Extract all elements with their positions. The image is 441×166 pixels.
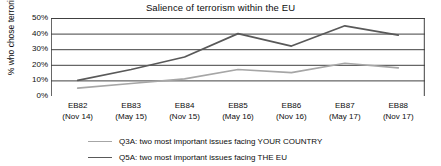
x-tick-date: (May 15): [104, 111, 157, 122]
x-tick-date: (Nov 14): [51, 111, 104, 122]
y-axis-tick-label: 0%: [18, 92, 48, 100]
x-axis-tick-label: EB87(May 17): [318, 100, 371, 126]
x-tick-date: (May 17): [318, 111, 371, 122]
y-axis-tick-label: 20%: [18, 61, 48, 69]
y-axis-tick-label: 30%: [18, 45, 48, 53]
x-tick-period: EB82: [51, 100, 104, 111]
x-axis-tick-label: EB85(May 16): [211, 100, 264, 126]
x-axis-tick-label: EB83(May 15): [104, 100, 157, 126]
x-tick-period: EB84: [158, 100, 211, 111]
series-line-q3a: [78, 63, 399, 88]
series-lines: [78, 26, 399, 88]
x-axis-tick-label: EB88(Nov 17): [372, 100, 425, 126]
x-tick-period: EB88: [372, 100, 425, 111]
chart-container: Salience of terrorism within the EU % wh…: [0, 0, 441, 166]
legend-item[interactable]: Q5A: two most important issues facing TH…: [0, 149, 441, 165]
chart-title: Salience of terrorism within the EU: [0, 2, 441, 13]
x-tick-date: (Nov 17): [372, 111, 425, 122]
legend-item[interactable]: Q3A: two most important issues facing YO…: [0, 133, 441, 149]
y-axis-tick-label: 10%: [18, 76, 48, 84]
chart-legend: Q3A: two most important issues facing YO…: [0, 133, 441, 165]
x-tick-period: EB85: [211, 100, 264, 111]
x-tick-period: EB87: [318, 100, 371, 111]
y-axis-tick-label: 50%: [18, 14, 48, 22]
x-axis-tick-label: EB84(Nov 15): [158, 100, 211, 126]
legend-item-label: Q3A: two most important issues facing YO…: [119, 137, 322, 146]
x-tick-date: (May 16): [211, 111, 264, 122]
x-axis-tick-labels: EB82(Nov 14)EB83(May 15)EB84(Nov 15)EB85…: [51, 100, 425, 126]
legend-line-swatch-icon: [88, 141, 112, 142]
x-tick-date: (Nov 16): [265, 111, 318, 122]
x-tick-period: EB83: [104, 100, 157, 111]
legend-item-label: Q5A: two most important issues facing TH…: [119, 153, 287, 162]
chart-plot-svg: [51, 18, 425, 96]
plot-area: [51, 18, 425, 96]
y-axis-tick-labels: 0%10%20%30%40%50%: [18, 18, 48, 96]
y-axis-tick-label: 40%: [18, 30, 48, 38]
legend-line-swatch-icon: [88, 157, 112, 158]
x-axis-tick-label: EB82(Nov 14): [51, 100, 104, 126]
x-tick-period: EB86: [265, 100, 318, 111]
x-axis-tick-label: EB86(Nov 16): [265, 100, 318, 126]
y-axis-title: % who chose terrorism: [6, 0, 18, 82]
x-tick-date: (Nov 15): [158, 111, 211, 122]
